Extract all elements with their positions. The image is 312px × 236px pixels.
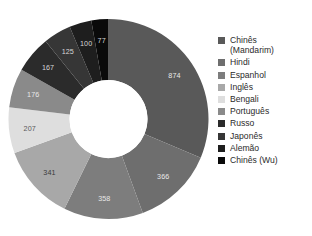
legend-swatch-alemao	[218, 145, 225, 152]
legend-item[interactable]: Chinês (Mandarim)	[218, 35, 312, 55]
legend-item[interactable]: Alemão	[218, 143, 312, 153]
donut-slice-label: 176	[27, 90, 39, 99]
legend-item[interactable]: Espanhol	[218, 70, 312, 80]
legend-item-label: Chinês (Wu)	[230, 155, 278, 165]
legend-swatch-hindi	[218, 59, 225, 66]
legend-swatch-bengali	[218, 96, 225, 103]
donut-chart-plot-area: 87436635834120717616712510077	[0, 0, 214, 236]
legend-item-label: Chinês (Mandarim)	[230, 35, 274, 55]
donut-slice-group	[9, 19, 209, 219]
legend-item[interactable]: Hindi	[218, 57, 312, 67]
legend-swatch-chines-wu	[218, 157, 225, 164]
legend-item-label: Japonês	[230, 131, 263, 141]
legend-item[interactable]: Inglês	[218, 82, 312, 92]
donut-chart-svg: 87436635834120717616712510077	[7, 9, 210, 229]
legend-item-label: Inglês	[230, 82, 253, 92]
donut-slice-label: 167	[42, 63, 54, 72]
donut-slice-label: 77	[98, 36, 106, 45]
legend-item-label: Bengali	[230, 94, 259, 104]
legend-item[interactable]: Português	[218, 106, 312, 116]
donut-slice-label: 366	[157, 172, 169, 181]
legend-item-label: Russo	[230, 118, 254, 128]
legend-item[interactable]: Chinês (Wu)	[218, 155, 312, 165]
donut-slice-label: 207	[24, 124, 36, 133]
legend-swatch-portugues	[218, 108, 225, 115]
legend-swatch-japones	[218, 133, 225, 140]
legend-item[interactable]: Russo	[218, 118, 312, 128]
legend-swatch-espanhol	[218, 72, 225, 79]
donut-slice-label: 341	[43, 168, 55, 177]
donut-chart-figure: 87436635834120717616712510077 Chinês (Ma…	[0, 0, 312, 236]
legend-item-label: Alemão	[230, 143, 259, 153]
donut-slice-label: 358	[98, 194, 110, 203]
donut-slice-label: 874	[168, 71, 180, 80]
chart-legend: Chinês (Mandarim)HindiEspanholInglêsBeng…	[214, 0, 312, 167]
legend-swatch-ingles	[218, 84, 225, 91]
legend-item[interactable]: Bengali	[218, 94, 312, 104]
donut-slice-label: 125	[62, 47, 74, 56]
donut-slice-label: 100	[80, 39, 92, 48]
legend-swatch-russo	[218, 120, 225, 127]
legend-item-label: Espanhol	[230, 70, 266, 80]
legend-swatch-chines-mandarim	[218, 37, 225, 44]
legend-item-label: Português	[230, 106, 269, 116]
legend-item-label: Hindi	[230, 57, 250, 67]
donut-center-hole	[70, 80, 148, 158]
legend-item[interactable]: Japonês	[218, 131, 312, 141]
